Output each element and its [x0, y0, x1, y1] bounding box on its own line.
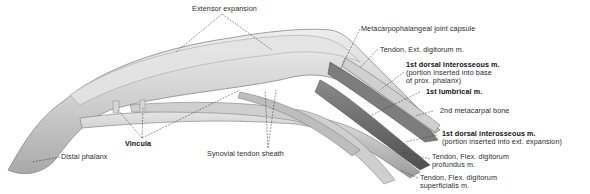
label-flex-superficialis-line2: superficialis m.	[420, 182, 469, 191]
label-dorsal-interosseous-2-line1: (portion inserted into ext. expansion)	[442, 138, 562, 147]
label-synovial-sheath: Synovial tendon sheath	[207, 150, 284, 159]
label-tendon-ext-digitorum: Tendon, Ext. digitorum m.	[380, 46, 464, 55]
label-distal-phalanx: Distal phalanx	[61, 153, 108, 162]
label-metacarpal-2: 2nd metacarpal bone	[440, 107, 509, 116]
label-mcp-capsule: Metacarpophalangeal joint capsule	[361, 25, 475, 34]
vincula-1	[113, 101, 119, 113]
finger-drawing	[0, 0, 590, 194]
label-extensor-expansion: Extensor expansion	[192, 5, 257, 14]
label-flex-profundus-line2: profundus m.	[432, 161, 475, 170]
label-vincula: Vincula	[125, 140, 151, 149]
finger-tendon-illustration: Extensor expansion Metacarpophalangeal j…	[0, 0, 590, 194]
vincula-2	[140, 100, 145, 113]
label-lumbrical-1: 1st lumbrical m.	[426, 88, 482, 97]
label-dorsal-interosseous-1-line2: of prox. phalanx)	[406, 77, 461, 86]
